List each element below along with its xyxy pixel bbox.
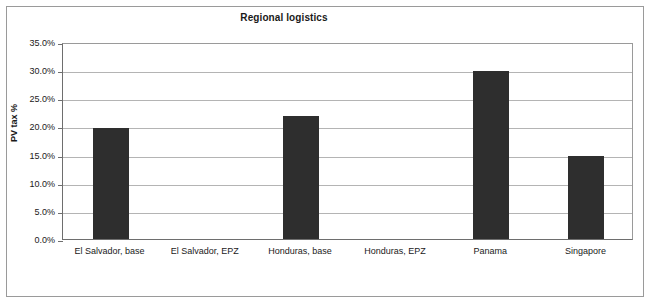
x-axis-tick-label: El Salvador, base	[75, 246, 145, 256]
x-axis-tick-label: El Salvador, EPZ	[171, 246, 239, 256]
bar	[568, 156, 604, 239]
y-axis-tick-label: 35.0%	[29, 38, 55, 48]
y-axis-tick	[58, 241, 63, 242]
bar	[473, 71, 509, 239]
y-axis-tick-label: 30.0%	[29, 66, 55, 76]
bar	[93, 128, 129, 239]
x-axis-tick-label: Honduras, EPZ	[364, 246, 426, 256]
chart-figure: Regional logistics PV tax % 0.0%5.0%10.0…	[0, 0, 650, 304]
y-axis-tick-label: 5.0%	[34, 207, 55, 217]
y-axis-tick-label: 25.0%	[29, 94, 55, 104]
x-axis-tick-label: Singapore	[565, 246, 606, 256]
y-axis-tick-label: 0.0%	[34, 235, 55, 245]
x-axis-tick-label: Honduras, base	[268, 246, 332, 256]
bar	[283, 116, 319, 239]
y-axis-tick-label: 15.0%	[29, 151, 55, 161]
y-axis-tick-label: 10.0%	[29, 179, 55, 189]
plot-area	[62, 43, 633, 240]
x-axis-tick-labels: El Salvador, baseEl Salvador, EPZHondura…	[62, 246, 633, 264]
chart-title: Regional logistics	[62, 12, 506, 23]
bar-series	[63, 44, 632, 239]
y-axis-tick-labels: 0.0%5.0%10.0%15.0%20.0%25.0%30.0%35.0%	[0, 43, 55, 240]
y-axis-tick-label: 20.0%	[29, 122, 55, 132]
x-axis-tick-label: Panama	[473, 246, 507, 256]
